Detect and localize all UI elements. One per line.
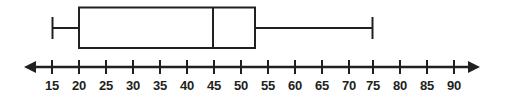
tick-label-50: 50 bbox=[228, 79, 254, 93]
tick-label-55: 55 bbox=[255, 79, 281, 93]
tick-label-70: 70 bbox=[336, 79, 362, 93]
axis-arrow-left-icon bbox=[24, 61, 36, 73]
tick-label-35: 35 bbox=[147, 79, 173, 93]
box-iqr bbox=[79, 8, 255, 49]
tick-label-85: 85 bbox=[414, 79, 440, 93]
tick-label-20: 20 bbox=[66, 79, 92, 93]
tick-label-65: 65 bbox=[309, 79, 335, 93]
tick-label-25: 25 bbox=[93, 79, 119, 93]
tick-label-40: 40 bbox=[174, 79, 200, 93]
tick-label-45: 45 bbox=[201, 79, 227, 93]
tick-label-15: 15 bbox=[39, 79, 65, 93]
tick-label-30: 30 bbox=[120, 79, 146, 93]
tick-label-75: 75 bbox=[360, 79, 386, 93]
tick-label-60: 60 bbox=[282, 79, 308, 93]
tick-label-90: 90 bbox=[441, 79, 467, 93]
tick-label-80: 80 bbox=[387, 79, 413, 93]
boxplot-figure: 15 20 25 30 35 40 45 50 55 60 65 70 75 8… bbox=[0, 0, 505, 99]
axis-arrow-right-icon bbox=[468, 61, 480, 73]
